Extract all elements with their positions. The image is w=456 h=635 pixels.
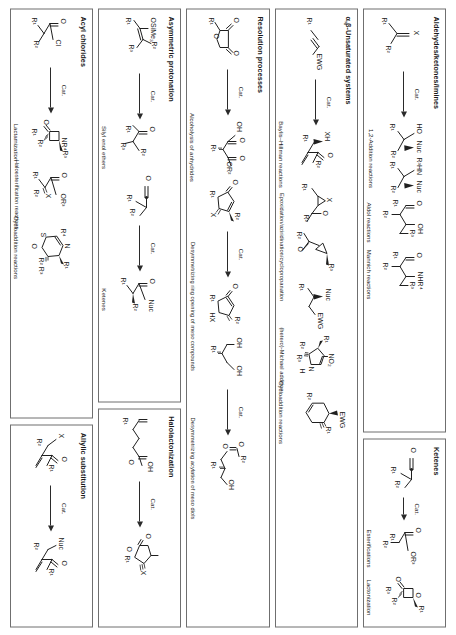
atom-o-carbonyl: O <box>395 576 402 582</box>
atom-r2: R² <box>382 210 389 218</box>
scheme-strip: O R¹ R² <box>376 445 433 620</box>
panel-halolactonization[interactable]: Halolactonization <box>98 408 181 627</box>
atom-r1: R¹ <box>325 426 332 434</box>
atom-r2: R² <box>140 148 147 156</box>
atom-r2: R² <box>240 455 247 463</box>
atom-r2: R² <box>129 208 136 216</box>
atom-r2: R² <box>394 480 401 488</box>
atom-r1: R¹ <box>125 17 132 25</box>
atom-or3: OR³ <box>410 551 417 565</box>
atom-r1: R¹ <box>210 461 217 469</box>
substrate-enone: R¹ EWG <box>288 17 345 73</box>
product-protonated-ketone: O R¹ R² R³ Silyl enol <box>111 125 168 169</box>
product-monoester-diol: O R² O <box>199 441 256 495</box>
atom-o-ring: O <box>415 592 422 598</box>
atom-r1: R¹ <box>32 171 39 179</box>
panel-unsaturated-systems[interactable]: α,β-Unsaturated systems R¹ EWG <box>275 8 358 627</box>
atom-r2: R² <box>234 212 241 220</box>
atom-o: O <box>31 243 38 249</box>
atom-nuc: Nuc <box>148 299 155 312</box>
atom-n: N <box>308 366 315 371</box>
reaction-arrow: Cat. <box>220 389 236 435</box>
atom-r1: R¹ <box>122 417 129 425</box>
atom-r3: R³ <box>62 150 69 158</box>
atom-x: X <box>413 30 420 35</box>
product-haloester: O OR³ X R¹ R² <box>23 171 80 217</box>
atom-r3: R³ <box>409 281 416 289</box>
reaction-arrow: Cat. <box>132 73 148 119</box>
product-cycloadduct: EWG R¹ R² Cycloaddition reactions <box>288 389 345 435</box>
atom-r2: R² <box>306 392 313 400</box>
atom-r2: R² <box>299 341 306 349</box>
scheme-strip: X O R¹ R² <box>23 431 80 620</box>
scheme-strip: R¹ EWG Cat. <box>288 15 345 620</box>
catalyst-label: Cat. <box>61 84 68 95</box>
product-thiazinone: R⁴ N S O R¹ R² R³ Cycloaddition reaction <box>23 223 80 271</box>
caption-mannich: Mannich reactions <box>366 249 372 298</box>
substrate-pentenoic-acid: OH O R¹ <box>111 417 168 475</box>
product-baylis-hillman: XH O R² R¹ <box>288 131 345 177</box>
panel-title: α,β-Unsaturated systems <box>344 16 352 620</box>
atom-r1: R¹ <box>323 335 330 343</box>
caption-cycloaddition: Cycloaddition reactions <box>13 215 19 278</box>
atom-o-ring: O <box>126 546 133 552</box>
atom-r2: R² <box>36 438 43 446</box>
figure-canvas: Aldehydes/ketones/imines X R¹ R² <box>0 0 456 635</box>
atom-r1: R¹ <box>390 466 397 474</box>
scheme-strip: X R¹ R² Cat. HO Nuc <box>376 15 433 425</box>
panel-aldehydes-ketones-imines[interactable]: Aldehydes/ketones/imines X R¹ R² <box>363 8 446 432</box>
product-diacid-ester: OH O O OR² <box>199 121 256 173</box>
product-lactonization: O O R¹ R² R³ <box>376 576 433 618</box>
atom-r2: R² <box>296 231 303 239</box>
atom-oh: OH <box>417 223 424 234</box>
catalyst-label: Cat. <box>61 503 68 514</box>
atom-o: O <box>61 172 68 178</box>
substrate-silyl-enol-ether: OSiMe₃ R¹ R² R³ <box>111 17 168 67</box>
substrate-anhydride: O O O R¹ <box>199 17 256 63</box>
reaction-arrow: Cat. <box>132 481 148 527</box>
atom-r3: R³ <box>328 263 335 271</box>
atom-r1: R¹ <box>31 128 38 136</box>
catalyst-label: Cat. <box>238 406 245 417</box>
caption-acylation-diols: Desymmetrizing acylation of meso diols <box>189 417 195 519</box>
reaction-arrow: Cat. <box>396 497 412 520</box>
atom-r1: R¹ <box>389 533 396 541</box>
atom-r2: R² <box>151 41 158 49</box>
row-1: Aldehydes/ketones/imines X R¹ R² <box>363 8 446 627</box>
atom-r1: R¹ <box>209 190 216 198</box>
atom-nuc: Nuc <box>325 288 332 301</box>
catalyst-label: Cat. <box>150 498 157 509</box>
atom-r2: R² <box>33 40 40 48</box>
panel-ketenes[interactable]: Ketenes O R¹ <box>363 438 446 627</box>
panel-allylic-substitution[interactable]: Allylic substitution X O <box>10 424 93 627</box>
caption-cycloaddition: Cycloaddition reactions <box>278 380 284 443</box>
product-ketene-nuc: O Nuc R¹ R² Ketenes <box>111 277 168 321</box>
panel-asymmetric-protonation[interactable]: Asymmetric protonation OSiMe₃ <box>98 8 181 402</box>
atom-oh: OH <box>147 461 154 472</box>
atom-r1: R¹ <box>208 17 215 25</box>
product-halolactone: O O X R¹ <box>111 533 168 583</box>
atom-o: O <box>297 246 304 252</box>
atom-r2: R² <box>37 139 44 147</box>
atom-r2: R² <box>33 542 40 550</box>
atom-h: H <box>299 368 306 373</box>
atom-o: O <box>416 200 423 206</box>
panel-acyl-chlorides[interactable]: Acyl chlorides O Cl <box>10 8 93 418</box>
atom-o-left: O <box>233 17 240 23</box>
caption-12-addition: 1,2-Addition reactions <box>368 129 374 188</box>
atom-o-carbonyl: O <box>145 533 152 539</box>
panel-resolution-processes[interactable]: Resolution processes O O O <box>186 8 269 627</box>
atom-oh: OH <box>236 121 243 132</box>
product-12-addition: HO Nuc R¹ R² R³HN Nuc <box>376 123 433 193</box>
atom-s: S <box>40 232 47 237</box>
atom-or2: OR² <box>226 161 233 175</box>
atom-o-ester: O <box>222 443 229 449</box>
caption-ring-opening: Desymmetrizing ring opening of meso comp… <box>189 242 195 371</box>
product-beta-lactam: O NR⁴ R³ R² R¹ <box>23 119 80 165</box>
atom-o: O <box>128 459 135 465</box>
atom-o: O <box>238 441 245 447</box>
atom-r1: R¹ <box>392 199 399 207</box>
atom-r1: R¹ <box>418 605 425 613</box>
atom-x: X <box>140 570 147 575</box>
atom-o-1: O <box>239 137 246 143</box>
